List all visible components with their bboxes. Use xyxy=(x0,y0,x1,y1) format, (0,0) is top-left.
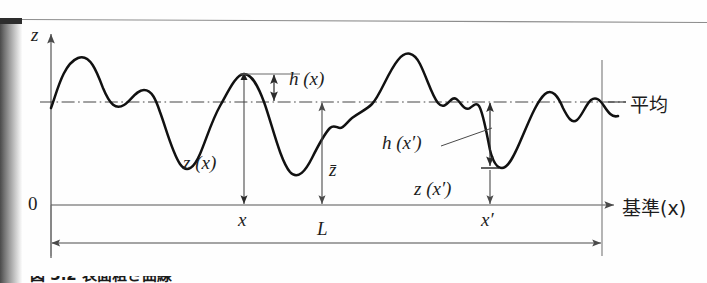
length-L-label: L xyxy=(317,218,328,240)
h-of-x-label: h (x) xyxy=(289,68,324,90)
z-of-x-prime-label: z (x′) xyxy=(414,178,451,200)
x-tick-label: x xyxy=(238,209,246,231)
surface-profile-curve xyxy=(51,54,618,176)
datum-axis-label: 基準(x) xyxy=(622,193,686,220)
h-of-x-prime-label: h (x′) xyxy=(382,132,422,154)
z-axis-label: z xyxy=(31,24,38,46)
roughness-profile-svg xyxy=(0,0,707,283)
x-prime-tick-label: x′ xyxy=(481,209,494,231)
figure-caption-strip: 図 3.2 表面粗さ曲線 xyxy=(0,276,707,283)
h-of-x-prime-leader-line xyxy=(441,128,492,146)
z-bar-label: z̄ xyxy=(329,159,336,181)
figure-caption: 図 3.2 表面粗さ曲線 xyxy=(30,276,172,283)
mean-line-label: 平均 xyxy=(630,90,668,117)
page-rule-line xyxy=(22,20,707,23)
z-of-x-label: z (x) xyxy=(183,152,216,174)
origin-label: 0 xyxy=(28,193,38,215)
figure-container: z 0 h (x) z (x) z̄ h (x′) z (x′) x x′ L … xyxy=(0,0,707,283)
